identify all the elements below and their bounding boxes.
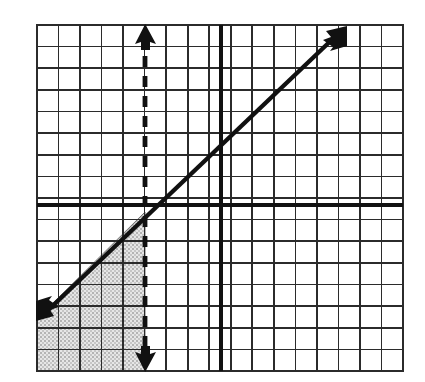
coordinate-plane-figure [0,0,425,382]
graph-canvas [0,0,425,382]
